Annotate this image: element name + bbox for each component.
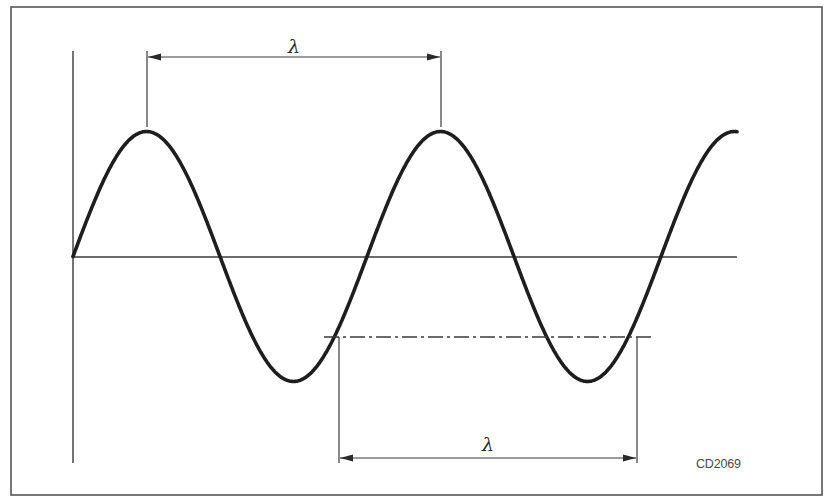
top-wavelength-dimension: λ bbox=[147, 35, 441, 127]
top-wavelength-label: λ bbox=[287, 35, 300, 57]
top-left-arrowhead-icon bbox=[148, 54, 161, 61]
figure-code-label: CD2069 bbox=[696, 457, 741, 471]
wavelength-diagram: λ λ CD2069 bbox=[0, 0, 830, 504]
bottom-left-arrowhead-icon bbox=[340, 455, 353, 462]
figure-frame bbox=[11, 7, 822, 495]
bottom-right-arrowhead-icon bbox=[623, 455, 636, 462]
bottom-wavelength-dimension: λ bbox=[339, 337, 637, 463]
bottom-wavelength-label: λ bbox=[481, 433, 494, 455]
top-right-arrowhead-icon bbox=[427, 54, 440, 61]
